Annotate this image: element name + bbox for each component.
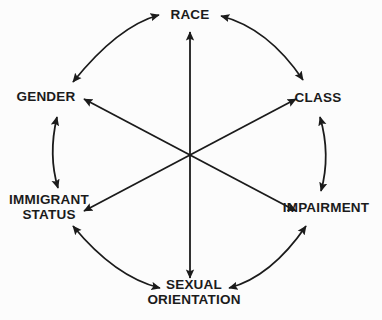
arc-class-impairment: [320, 117, 326, 191]
node-label-immigrant-status: IMMIGRANT STATUS: [9, 193, 89, 222]
node-label-sexual-orientation: SEXUAL ORIENTATION: [147, 278, 240, 307]
arc-gender-race: [73, 15, 159, 82]
arc-race-class: [221, 16, 303, 80]
node-label-class: CLASS: [295, 91, 342, 106]
node-label-race: RACE: [170, 8, 209, 23]
node-label-gender: GENDER: [17, 90, 76, 105]
identity-wheel-diagram: RACE CLASS IMPAIRMENT SEXUAL ORIENTATION…: [0, 0, 382, 320]
arc-immigrant-status-gender: [53, 117, 58, 188]
node-label-impairment: IMPAIRMENT: [283, 201, 370, 216]
diagram-canvas: [0, 0, 382, 320]
